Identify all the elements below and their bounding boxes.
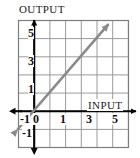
y-tick-label-1: 1 [28,83,34,95]
x-tick-label-1: 1 [60,113,66,125]
x-tick-label-3: 3 [86,113,92,125]
x-axis-left-arrowhead [9,108,16,115]
x-tick-label-5: 5 [112,113,118,125]
coordinate-graph-figure: OUTPUT INPUT -1 0 1 3 5 5 3 1 -1 [0,0,140,158]
x-axis-label-input: INPUT [87,99,123,111]
y-tick-label-3: 3 [28,55,34,67]
y-tick-label-5: 5 [28,27,34,39]
x-tick-label-0: 0 [33,113,39,125]
graph-canvas [0,0,140,158]
y-axis-bottom-arrowhead [31,148,38,155]
x-tick-label-neg1: -1 [20,113,30,125]
y-tick-label-neg1: -1 [22,127,32,139]
y-axis-label-output: OUTPUT [19,3,65,15]
